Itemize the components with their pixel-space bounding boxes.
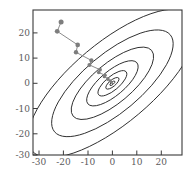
x-tick-label-1: -20 bbox=[56, 158, 71, 167]
x-tick-label-3: 0 bbox=[110, 158, 116, 167]
trajectory-point bbox=[103, 75, 106, 78]
y-tick-label-3: -10 bbox=[4, 104, 30, 113]
trajectory-point bbox=[106, 78, 109, 81]
contour-plot-figure: -30 -20 -10 0 10 20 20 10 0 -10 -20 -30 bbox=[0, 0, 196, 183]
y-tick-label-5: -30 bbox=[4, 151, 30, 160]
y-tick-label-4: -20 bbox=[4, 129, 30, 138]
trajectory-point-start bbox=[59, 20, 64, 25]
y-tick-label-1: 10 bbox=[8, 54, 30, 63]
y-tick-label-2: 0 bbox=[8, 79, 30, 88]
x-tick-label-4: 10 bbox=[131, 158, 142, 167]
x-tick-label-5: 20 bbox=[156, 158, 167, 167]
x-tick-label-0: -30 bbox=[32, 158, 47, 167]
trajectory-point bbox=[55, 29, 60, 34]
trajectory-point bbox=[75, 43, 80, 48]
trajectory-point bbox=[97, 71, 101, 75]
y-tick-label-0: 20 bbox=[8, 28, 30, 37]
trajectory-point bbox=[89, 58, 93, 62]
x-tick-label-2: -10 bbox=[81, 158, 96, 167]
trajectory-point-end bbox=[112, 82, 114, 84]
trajectory-point bbox=[87, 63, 91, 67]
trajectory-point bbox=[74, 50, 78, 54]
